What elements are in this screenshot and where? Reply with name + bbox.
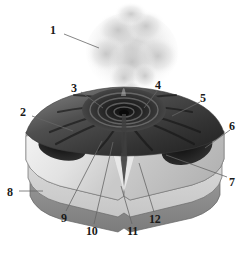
callout-label-7: 7 — [229, 176, 235, 188]
callout-label-10: 10 — [86, 225, 98, 237]
volcano-diagram-figure: 123456789101112 — [0, 0, 250, 253]
callout-label-12: 12 — [149, 213, 161, 225]
callout-label-6: 6 — [229, 120, 235, 132]
callout-label-8: 8 — [7, 186, 13, 198]
callout-label-2: 2 — [20, 106, 26, 118]
volcano-illustration — [0, 0, 250, 253]
callout-label-4: 4 — [155, 79, 161, 91]
callout-label-5: 5 — [200, 92, 206, 104]
callout-label-9: 9 — [61, 212, 67, 224]
callout-label-1: 1 — [50, 24, 56, 36]
callout-label-11: 11 — [127, 225, 138, 237]
callout-label-3: 3 — [71, 82, 77, 94]
